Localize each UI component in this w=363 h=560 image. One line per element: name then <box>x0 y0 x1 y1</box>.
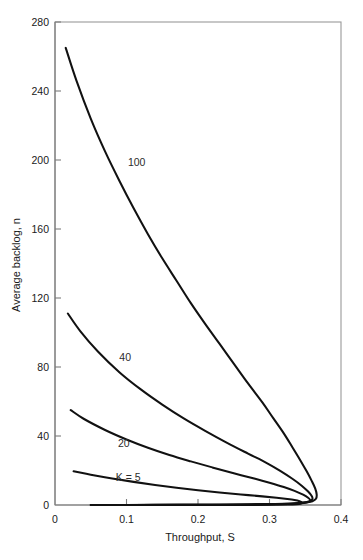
y-tick-label: 120 <box>31 292 49 304</box>
y-tick-label: 160 <box>31 223 49 235</box>
chart-figure: 00.10.20.30.4 04080120160200240280 K = 5… <box>0 0 363 560</box>
curve-label-0: K = 5 <box>116 471 141 483</box>
curve-label-1: 20 <box>118 437 130 449</box>
x-tick-label: 0.2 <box>191 513 206 525</box>
x-tick-label: 0.1 <box>119 513 134 525</box>
curve-label-3: 100 <box>128 156 146 168</box>
y-axis-label: Average backlog, n <box>10 218 22 312</box>
x-tick-label: 0 <box>52 513 58 525</box>
y-tick-label: 280 <box>31 16 49 28</box>
backlog-throughput-chart: 00.10.20.30.4 04080120160200240280 K = 5… <box>0 0 363 560</box>
y-tick-label: 40 <box>37 430 49 442</box>
x-tick-label: 0.3 <box>262 513 277 525</box>
y-tick-label: 80 <box>37 361 49 373</box>
x-tick-label: 0.4 <box>334 513 349 525</box>
y-tick-label: 200 <box>31 154 49 166</box>
y-tick-label: 240 <box>31 85 49 97</box>
curve-label-2: 40 <box>119 351 131 363</box>
x-axis-label: Throughput, S <box>165 531 235 543</box>
y-tick-label: 0 <box>43 499 49 511</box>
